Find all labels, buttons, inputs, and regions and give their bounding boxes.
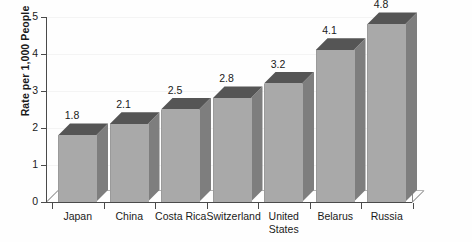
- x-tick-mark: [207, 203, 208, 209]
- bar-front-face: [213, 98, 252, 202]
- bar-value-label: 4.8: [359, 0, 403, 10]
- x-axis-category-label: Japan: [52, 210, 104, 223]
- bar-value-label: 2.8: [205, 72, 249, 84]
- y-tick-mark: [41, 54, 46, 55]
- y-tick-mark: [41, 165, 46, 166]
- x-tick-mark: [258, 203, 259, 209]
- bar-side-face: [405, 12, 417, 202]
- bar-front-face: [161, 110, 200, 203]
- bar-side-face: [148, 112, 160, 202]
- x-tick-mark: [361, 203, 362, 209]
- bar-side-face: [251, 86, 263, 202]
- x-axis-line: [46, 202, 412, 203]
- bar-value-label: 2.5: [153, 84, 197, 96]
- bar-front-face: [110, 124, 149, 202]
- x-axis-category-label: Russia: [361, 210, 413, 223]
- y-tick-label: 4: [12, 47, 38, 59]
- bar-side-face: [354, 38, 366, 202]
- floor-edge-left: [46, 190, 59, 203]
- bar-side-face: [199, 98, 211, 203]
- gridline: [47, 17, 412, 18]
- y-tick-mark: [41, 17, 46, 18]
- x-tick-mark: [413, 203, 414, 209]
- y-tick-label: 2: [12, 121, 38, 133]
- x-tick-mark: [52, 203, 53, 209]
- x-axis-category-label: Costa Rica: [155, 210, 207, 223]
- bar-side-face: [302, 72, 314, 202]
- x-tick-mark: [310, 203, 311, 209]
- x-axis-category-label: Belarus: [310, 210, 362, 223]
- bar-value-label: 4.1: [308, 24, 352, 36]
- x-axis-category-label: Switzerland: [207, 210, 259, 223]
- y-tick-mark: [41, 128, 46, 129]
- y-tick-label: 0: [12, 195, 38, 207]
- x-axis-category-label: China: [104, 210, 156, 223]
- x-tick-mark: [155, 203, 156, 209]
- x-axis-category-label: United States: [258, 210, 310, 235]
- bar-chart: Rate per 1,000 People 1.82.12.52.83.24.1…: [0, 0, 472, 242]
- y-tick-label: 5: [12, 10, 38, 22]
- bar-side-face: [96, 123, 108, 202]
- y-axis-line: [46, 17, 47, 203]
- x-tick-mark: [104, 203, 105, 209]
- bar-value-label: 3.2: [256, 58, 300, 70]
- bar-front-face: [264, 84, 303, 202]
- y-tick-mark: [41, 91, 46, 92]
- bar-front-face: [316, 50, 355, 202]
- bar-value-label: 1.8: [50, 109, 94, 121]
- y-tick-mark: [41, 202, 46, 203]
- y-tick-label: 3: [12, 84, 38, 96]
- y-tick-label: 1: [12, 158, 38, 170]
- bar-value-label: 2.1: [102, 98, 146, 110]
- bar-front-face: [367, 24, 406, 202]
- bar-front-face: [58, 135, 97, 202]
